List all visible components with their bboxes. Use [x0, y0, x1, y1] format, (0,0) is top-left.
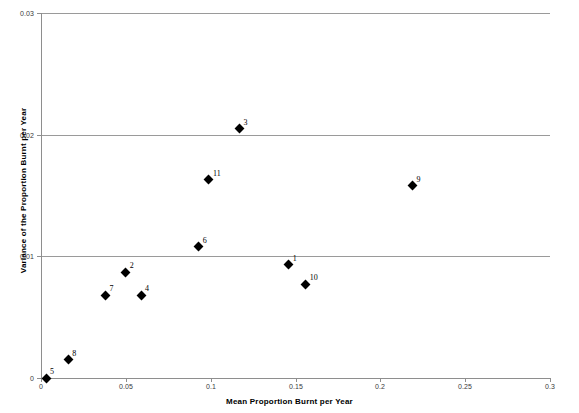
y-tick-label: 0.03 — [20, 10, 34, 17]
data-point-label: 2 — [130, 261, 134, 270]
x-tick-label: 0.2 — [375, 383, 385, 390]
x-tick-mark — [550, 378, 551, 382]
y-tick-label: 0 — [30, 375, 34, 382]
y-axis-title: Variance of the Proportion Burnt per Yea… — [19, 81, 28, 301]
x-axis-title: Mean Proportion Burnt per Year — [0, 397, 579, 406]
x-tick-label: 0.3 — [545, 383, 555, 390]
data-point-label: 3 — [244, 118, 248, 127]
x-tick-label: 0.05 — [119, 383, 133, 390]
data-point-label: 9 — [417, 175, 421, 184]
x-tick-label: 0 — [39, 383, 43, 390]
x-tick-mark — [380, 378, 381, 382]
x-tick-mark — [211, 378, 212, 382]
data-point-label: 10 — [310, 273, 318, 282]
data-point-label: 7 — [109, 284, 113, 293]
scatter-chart: 00.050.10.150.20.250.3 00.010.020.03 587… — [0, 0, 579, 413]
x-tick-mark — [465, 378, 466, 382]
data-point-label: 5 — [50, 367, 54, 376]
data-point-label: 11 — [213, 169, 221, 178]
data-point-label: 4 — [145, 284, 149, 293]
x-tick-label: 0.1 — [206, 383, 216, 390]
data-point-label: 6 — [203, 236, 207, 245]
data-point-label: 1 — [293, 254, 297, 263]
x-tick-label: 0.15 — [289, 383, 303, 390]
plot-area: 5872461131109 — [41, 13, 550, 378]
x-tick-mark — [126, 378, 127, 382]
data-point-label: 8 — [72, 349, 76, 358]
x-tick-mark — [296, 378, 297, 382]
x-tick-label: 0.25 — [458, 383, 472, 390]
